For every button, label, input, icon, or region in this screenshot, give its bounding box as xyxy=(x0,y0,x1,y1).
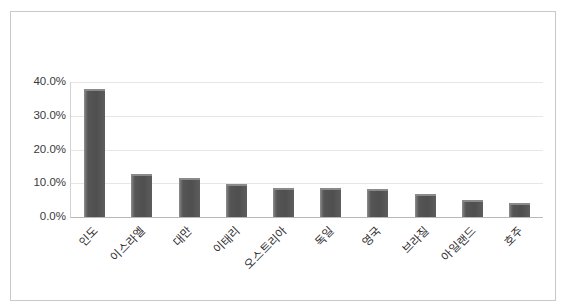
bar[interactable] xyxy=(179,178,200,217)
x-axis-tick-label-text: 독일 xyxy=(313,224,337,248)
bar[interactable] xyxy=(226,184,247,217)
x-axis-tick: 브라질 xyxy=(401,220,448,300)
x-axis-tick: 아일랜드 xyxy=(448,220,495,300)
y-axis: 0.0%10.0%20.0%30.0%40.0% xyxy=(11,12,66,302)
bar-slot xyxy=(354,82,401,217)
bar-slot xyxy=(449,82,496,217)
bar-slot xyxy=(213,82,260,217)
y-axis-tick-label: 20.0% xyxy=(14,144,66,155)
bar-slot xyxy=(401,82,448,217)
bar[interactable] xyxy=(84,89,105,217)
bar-slot xyxy=(118,82,165,217)
x-axis-tick: 호주 xyxy=(496,220,543,300)
y-axis-tick-label: 0.0% xyxy=(14,211,66,222)
x-axis-tick: 오스트리아 xyxy=(259,220,306,300)
x-axis-tick-label-text: 브라질 xyxy=(399,224,431,256)
x-axis-tick-label-text: 이태리 xyxy=(210,224,242,256)
x-axis-tick-label-text: 호주 xyxy=(502,224,526,248)
x-axis-tick-label-text: 인도 xyxy=(76,224,100,248)
x-axis-tick: 이스라엘 xyxy=(117,220,164,300)
x-axis-tick-label-text: 대만 xyxy=(171,224,195,248)
bar-slot xyxy=(71,82,118,217)
x-axis-tick: 대만 xyxy=(165,220,212,300)
y-axis-tick-label: 30.0% xyxy=(14,110,66,121)
x-axis-tick: 영국 xyxy=(354,220,401,300)
x-axis-tick-label-text: 영국 xyxy=(360,224,384,248)
x-axis-tick: 인도 xyxy=(70,220,117,300)
y-axis-tick-label: 40.0% xyxy=(14,76,66,87)
bar-slot xyxy=(260,82,307,217)
chart-frame: 0.0%10.0%20.0%30.0%40.0% 인도이스라엘대만이태리오스트리… xyxy=(10,11,556,301)
x-axis: 인도이스라엘대만이태리오스트리아독일영국브라질아일랜드호주 xyxy=(70,220,543,300)
y-axis-tick-label: 10.0% xyxy=(14,177,66,188)
bar[interactable] xyxy=(131,174,152,217)
x-axis-tick: 독일 xyxy=(306,220,353,300)
